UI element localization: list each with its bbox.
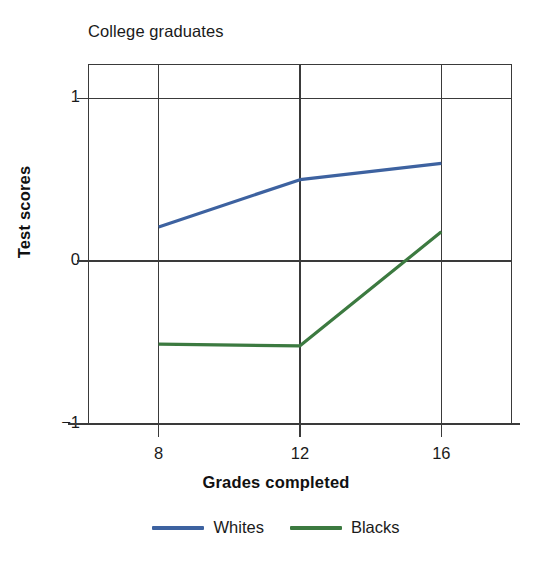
y-tick-mark <box>77 98 88 99</box>
legend-item-blacks[interactable]: Blacks <box>290 518 400 537</box>
x-axis-ticks: 81216 <box>0 437 552 461</box>
y-axis-label: Test scores <box>15 166 34 259</box>
y-tick-mark <box>77 260 88 261</box>
legend-label: Whites <box>213 518 263 537</box>
legend-line-icon <box>290 526 342 530</box>
plot-area <box>88 64 512 424</box>
y-axis-ticks: 10−1 <box>40 0 80 584</box>
chart-figure: College graduates 10−1 81216 Test scores… <box>0 0 552 584</box>
legend-line-icon <box>152 526 204 530</box>
x-tick-label: 16 <box>432 444 450 463</box>
plot-canvas <box>88 64 512 424</box>
x-tick-label: 12 <box>291 444 309 463</box>
x-tick-label: 8 <box>154 444 163 463</box>
legend-item-whites[interactable]: Whites <box>152 518 263 537</box>
x-tick-mark <box>158 424 159 437</box>
chart-title: College graduates <box>88 22 224 41</box>
chart-legend: WhitesBlacks <box>0 518 552 537</box>
x-axis-spine <box>68 423 520 424</box>
legend-label: Blacks <box>351 518 400 537</box>
y-axis-label-container: Test scores <box>12 122 36 302</box>
gridlines <box>88 64 512 424</box>
x-tick-mark <box>441 424 442 437</box>
x-axis-label: Grades completed <box>0 473 552 492</box>
x-tick-mark <box>299 424 300 437</box>
